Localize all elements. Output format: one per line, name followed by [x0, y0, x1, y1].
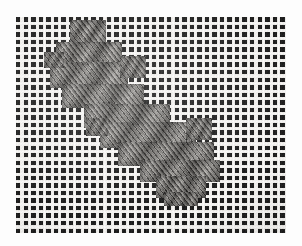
needlepoint-canvas-swatch	[16, 17, 286, 233]
photo-scene	[0, 0, 302, 246]
canvas-mesh-thread-highlights	[16, 17, 286, 233]
